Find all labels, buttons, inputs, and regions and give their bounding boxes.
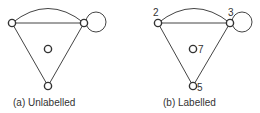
edge-self-loop — [232, 12, 252, 32]
edge-left — [158, 23, 193, 86]
caption-b: (b) Labelled — [163, 97, 216, 108]
node-2 — [154, 19, 161, 26]
node-5 — [189, 82, 196, 89]
node-3 — [226, 19, 233, 26]
node-7 — [189, 45, 196, 52]
node-right — [80, 19, 87, 26]
edge-self-loop — [86, 12, 106, 32]
node-bottom — [44, 82, 51, 89]
edge-left — [12, 23, 48, 86]
node-label-2: 2 — [153, 7, 159, 18]
graph-figure: (a) Unlabelled 2 3 7 5 (b) Labelled — [0, 0, 260, 113]
caption-a: (a) Unlabelled — [13, 97, 75, 108]
edge-arc — [158, 9, 230, 24]
node-label-7: 7 — [198, 44, 204, 55]
node-isolated — [44, 45, 51, 52]
edge-arc — [12, 9, 84, 24]
graph-unlabelled: (a) Unlabelled — [8, 9, 106, 109]
edge-right — [48, 23, 84, 86]
node-left — [8, 19, 15, 26]
graph-labelled: 2 3 7 5 (b) Labelled — [153, 7, 252, 108]
node-label-3: 3 — [228, 7, 234, 18]
node-label-5: 5 — [197, 82, 203, 93]
